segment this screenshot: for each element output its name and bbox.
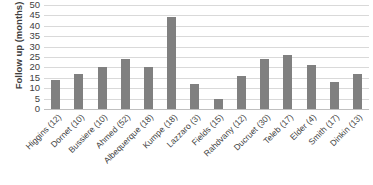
bar[interactable] — [167, 17, 176, 109]
x-label-slot: Elder (4) — [299, 110, 322, 185]
x-label-slot: Dinkin (13) — [346, 110, 369, 185]
bar-slot — [137, 5, 160, 109]
bar-slot — [276, 5, 299, 109]
bar[interactable] — [260, 59, 269, 109]
bar[interactable] — [51, 80, 60, 109]
y-tick-label: 10 — [29, 83, 40, 93]
y-tick-label: 30 — [29, 42, 40, 52]
bar-slot — [90, 5, 113, 109]
x-axis-tick-labels: Higgins (12)Dornet (10)Bussiere (10)Ahme… — [44, 110, 369, 185]
bar[interactable] — [121, 59, 130, 109]
x-label-slot: Lazzaro (3) — [183, 110, 206, 185]
bar-slot — [299, 5, 322, 109]
y-tick-label: 45 — [29, 11, 40, 21]
bar-slot — [346, 5, 369, 109]
plot-area — [44, 5, 369, 109]
bar-slot — [44, 5, 67, 109]
bar[interactable] — [283, 55, 292, 109]
bar[interactable] — [353, 74, 362, 109]
bar[interactable] — [307, 65, 316, 109]
y-tick-label: 15 — [29, 73, 40, 83]
y-tick-label: 35 — [29, 31, 40, 41]
bar[interactable] — [144, 67, 153, 109]
bar-slot — [160, 5, 183, 109]
bar-slot — [323, 5, 346, 109]
bar-slot — [114, 5, 137, 109]
y-tick-label: 40 — [29, 21, 40, 31]
bar-slot — [207, 5, 230, 109]
bar[interactable] — [214, 99, 223, 109]
bar[interactable] — [98, 67, 107, 109]
y-axis-tick-labels: 50454035302520151050 — [18, 5, 42, 109]
bar-slot — [67, 5, 90, 109]
bar-series — [44, 5, 369, 109]
x-label-slot: Teleb (17) — [276, 110, 299, 185]
y-tick-label: 50 — [29, 0, 40, 10]
bar[interactable] — [190, 84, 199, 109]
bar[interactable] — [237, 76, 246, 109]
y-tick-label: 0 — [35, 104, 40, 114]
bar-slot — [253, 5, 276, 109]
y-tick-label: 20 — [29, 63, 40, 73]
bar[interactable] — [330, 82, 339, 109]
bar-slot — [183, 5, 206, 109]
y-tick-label: 25 — [29, 52, 40, 62]
y-tick-label: 5 — [35, 94, 40, 104]
bar-chart: Follow up (months) 50454035302520151050 … — [0, 0, 373, 185]
x-label-slot: Ducruet (30) — [253, 110, 276, 185]
bar-slot — [230, 5, 253, 109]
bar[interactable] — [74, 74, 83, 109]
